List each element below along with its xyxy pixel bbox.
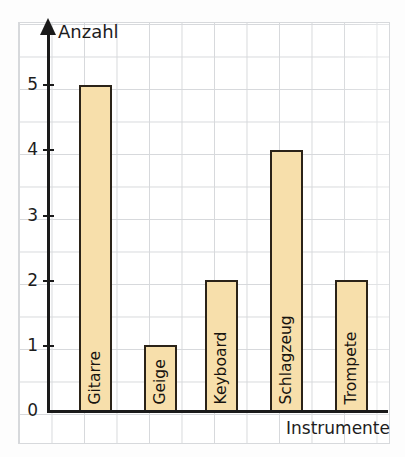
y-tick-label-0: 0 bbox=[14, 402, 38, 419]
plot-area: Anzahl 5 4 3 2 1 0 Gitarre Geige Keyb bbox=[0, 0, 405, 457]
bar-label-keyboard: Keyboard bbox=[214, 331, 230, 404]
y-tick-label-2: 2 bbox=[14, 272, 38, 289]
x-axis-line bbox=[47, 410, 388, 413]
bar-schlagzeug[interactable]: Schlagzeug bbox=[270, 150, 303, 412]
y-tick-mark-4 bbox=[43, 149, 54, 151]
y-tick-label-3: 3 bbox=[14, 207, 38, 224]
bar-label-schlagzeug: Schlagzeug bbox=[279, 315, 295, 404]
bar-label-gitarre: Gitarre bbox=[88, 350, 104, 404]
y-tick-mark-5 bbox=[43, 84, 54, 86]
bar-geige[interactable]: Geige bbox=[144, 345, 177, 412]
bar-trompete[interactable]: Trompete bbox=[335, 280, 368, 412]
bar-label-trompete: Trompete bbox=[344, 331, 360, 404]
bar-keyboard[interactable]: Keyboard bbox=[205, 280, 238, 412]
y-tick-label-1: 1 bbox=[14, 337, 38, 354]
bar-label-geige: Geige bbox=[153, 359, 169, 404]
y-tick-label-5: 5 bbox=[14, 76, 38, 93]
bar-gitarre[interactable]: Gitarre bbox=[79, 85, 112, 412]
y-tick-label-4: 4 bbox=[14, 141, 38, 158]
bar-chart-figure: Anzahl 5 4 3 2 1 0 Gitarre Geige Keyb bbox=[0, 0, 405, 457]
y-axis-title: Anzahl bbox=[58, 21, 119, 42]
y-tick-mark-2 bbox=[43, 280, 54, 282]
y-tick-mark-3 bbox=[43, 215, 54, 217]
x-axis-title: Instrumente bbox=[286, 418, 390, 438]
y-tick-mark-1 bbox=[43, 345, 54, 347]
y-axis-line bbox=[47, 30, 50, 412]
